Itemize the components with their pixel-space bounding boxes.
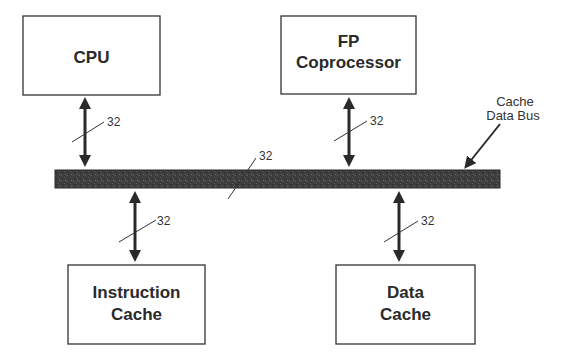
icache-bus-arrow: 32 bbox=[119, 197, 171, 256]
fp-coprocessor-block: FP Coprocessor bbox=[281, 16, 416, 94]
dcache-label-line1: Data bbox=[387, 283, 424, 302]
cpu-label: CPU bbox=[74, 48, 110, 67]
bus-pointer-arrow bbox=[468, 124, 500, 164]
fp-label-line2: Coprocessor bbox=[296, 53, 401, 72]
cache-data-bus-bar bbox=[55, 170, 500, 188]
icache-label-line1: Instruction bbox=[93, 283, 181, 302]
dcache-bus-width: 32 bbox=[421, 214, 435, 228]
fp-bus-width: 32 bbox=[370, 114, 384, 128]
bus-width-label: 32 bbox=[259, 149, 273, 163]
dcache-label-line2: Cache bbox=[380, 305, 431, 324]
fp-bus-arrow: 32 bbox=[334, 103, 384, 161]
instruction-cache-block: Instruction Cache bbox=[68, 265, 205, 344]
icache-bus-width: 32 bbox=[157, 214, 171, 228]
fp-label-line1: FP bbox=[338, 32, 360, 51]
bus-label-line1: Cache bbox=[496, 94, 534, 109]
cache-data-bus-annotation: Cache Data Bus bbox=[468, 94, 540, 164]
dcache-bus-arrow: 32 bbox=[384, 197, 435, 256]
cpu-block: CPU bbox=[23, 16, 160, 95]
icache-label-line2: Cache bbox=[111, 305, 162, 324]
bus-label-line2: Data Bus bbox=[486, 108, 540, 123]
cache-bus-diagram: CPU FP Coprocessor 32 32 32 32 32 Instru… bbox=[0, 0, 562, 361]
data-cache-block: Data Cache bbox=[336, 265, 475, 344]
cpu-bus-width: 32 bbox=[107, 115, 121, 129]
cpu-bus-arrow: 32 bbox=[72, 103, 121, 161]
